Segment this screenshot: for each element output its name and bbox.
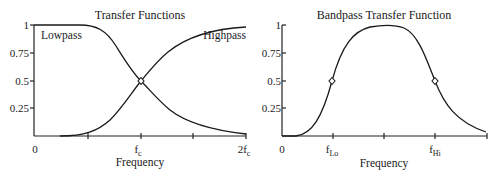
x-tick-label-zero: 0 <box>279 143 285 155</box>
charts-canvas: Transfer Functions 1 0.75 0.5 0.25 0 fc … <box>0 0 498 176</box>
bandpass-transfer-function-chart: Bandpass Transfer Function 1 0.75 0.5 0.… <box>262 8 487 170</box>
x-ticks: 0 fc 2fc <box>32 133 251 158</box>
x-tick-label-2fc: 2fc <box>238 143 251 158</box>
chart-title: Bandpass Transfer Function <box>317 8 452 22</box>
fhi-diamond-marker <box>432 78 438 85</box>
transfer-functions-chart: Transfer Functions 1 0.75 0.5 0.25 0 fc … <box>10 8 251 169</box>
y-ticks: 1 0.75 0.5 0.25 <box>10 19 34 114</box>
y-tick-label: 0.75 <box>10 47 30 59</box>
chart-title: Transfer Functions <box>95 8 186 22</box>
y-tick-label: 0.5 <box>267 75 281 87</box>
lowpass-label: Lowpass <box>41 29 82 42</box>
y-tick-label: 1 <box>276 19 282 31</box>
bandpass-curve <box>282 26 486 136</box>
y-tick-label: 0.75 <box>262 47 282 59</box>
highpass-label: Highpass <box>203 29 246 42</box>
flo-diamond-marker <box>329 78 335 85</box>
x-tick-label-zero: 0 <box>32 143 38 155</box>
x-axis-label: Frequency <box>116 156 165 169</box>
highpass-curve <box>60 27 246 136</box>
x-ticks: 0 fLo fHi <box>279 133 487 158</box>
y-tick-label: 0.25 <box>262 102 282 114</box>
y-tick-label: 0.25 <box>10 102 30 114</box>
y-tick-label: 0.5 <box>15 75 29 87</box>
y-tick-label: 1 <box>24 19 30 31</box>
x-axis-label: Frequency <box>360 157 409 170</box>
x-tick-label-flo: fLo <box>326 143 339 158</box>
x-tick-label-fhi: fHi <box>429 143 441 158</box>
